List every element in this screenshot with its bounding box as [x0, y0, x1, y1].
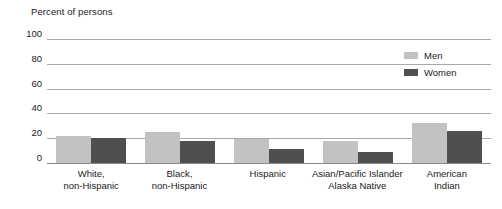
y-tick-label-0: 0 — [37, 152, 42, 163]
bar-pair — [225, 39, 314, 163]
chart-figure: Percent of persons 100806040200 White,no… — [0, 0, 502, 209]
x-axis-label-line: non-Hispanic — [47, 180, 135, 192]
x-axis-label-line: Alaska Native — [312, 180, 403, 192]
legend-swatch-men-icon — [404, 52, 418, 59]
legend-item-men: Men — [404, 50, 457, 61]
y-tick-label-20: 20 — [31, 127, 42, 138]
legend-item-women: Women — [404, 67, 457, 78]
y-axis-title: Percent of persons — [31, 6, 113, 17]
bar-men — [234, 139, 269, 163]
y-tick-label-40: 40 — [31, 102, 42, 113]
bar-group — [225, 39, 314, 163]
bar-group — [136, 39, 225, 163]
y-tick-label-100: 100 — [26, 28, 42, 39]
bar-women — [269, 149, 304, 163]
x-axis-label: Hispanic — [224, 168, 312, 192]
bar-women — [447, 131, 482, 163]
x-axis-labels: White,non-HispanicBlack,non-HispanicHisp… — [47, 168, 491, 192]
bar-pair — [313, 39, 402, 163]
axis-baseline: 0 — [47, 163, 491, 164]
x-axis-label-line: American — [403, 168, 491, 180]
x-axis-label-line: Indian — [403, 180, 491, 192]
bar-men — [323, 141, 358, 163]
bar-pair — [136, 39, 225, 163]
x-axis-label: White,non-Hispanic — [47, 168, 135, 192]
bar-men — [56, 136, 91, 163]
bar-women — [180, 141, 215, 163]
x-axis-label-line: Hispanic — [224, 168, 312, 180]
bar-men — [145, 132, 180, 163]
legend-swatch-women-icon — [404, 69, 418, 76]
legend: Men Women — [404, 50, 457, 78]
bar-women — [358, 152, 393, 163]
x-axis-label-line: non-Hispanic — [135, 180, 223, 192]
bar-women — [91, 138, 126, 163]
bar-group — [47, 39, 136, 163]
x-axis-label: AmericanIndian — [403, 168, 491, 192]
x-axis-label-line: Black, — [135, 168, 223, 180]
bar-group — [313, 39, 402, 163]
bar-pair — [47, 39, 136, 163]
legend-label-men: Men — [424, 50, 442, 61]
y-tick-label-80: 80 — [31, 53, 42, 64]
x-axis-label: Black,non-Hispanic — [135, 168, 223, 192]
legend-label-women: Women — [424, 67, 457, 78]
x-axis-label-line: Asian/Pacific Islander — [312, 168, 403, 180]
x-axis-label: Asian/Pacific IslanderAlaska Native — [312, 168, 403, 192]
x-axis-label-line — [224, 180, 312, 192]
bar-men — [412, 123, 447, 163]
y-tick-label-60: 60 — [31, 78, 42, 89]
x-axis-label-line: White, — [47, 168, 135, 180]
